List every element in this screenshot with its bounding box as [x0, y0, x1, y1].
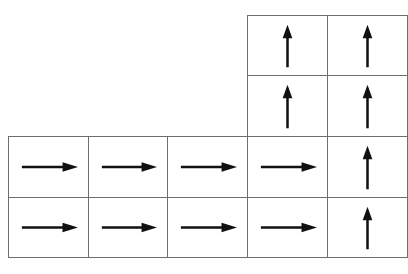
arrow-up-icon: [328, 76, 407, 136]
grid-cell: [247, 136, 328, 198]
arrow-up-icon: [328, 198, 407, 257]
arrow-right-icon: [89, 137, 167, 197]
grid-cell: [327, 15, 408, 76]
arrow-up-icon: [248, 16, 327, 75]
grid-cell: [327, 136, 408, 198]
arrow-right-icon: [9, 198, 88, 257]
arrow-right-icon: [168, 198, 247, 257]
grid-cell: [167, 197, 248, 258]
grid-cell: [247, 197, 328, 258]
arrow-up-icon: [248, 76, 327, 136]
grid-cell: [88, 136, 168, 198]
arrow-right-icon: [89, 198, 167, 257]
arrow-grid-diagram: [0, 0, 408, 274]
grid-cell: [327, 75, 408, 137]
arrow-right-icon: [248, 198, 327, 257]
grid-cell: [8, 197, 89, 258]
grid-cell: [247, 15, 328, 76]
arrow-right-icon: [9, 137, 88, 197]
arrow-right-icon: [168, 137, 247, 197]
grid-cell: [247, 75, 328, 137]
grid-cell: [167, 136, 248, 198]
arrow-right-icon: [248, 137, 327, 197]
grid-cell: [88, 197, 168, 258]
grid-cell: [327, 197, 408, 258]
grid-cell: [8, 136, 89, 198]
arrow-up-icon: [328, 137, 407, 197]
arrow-up-icon: [328, 16, 407, 75]
